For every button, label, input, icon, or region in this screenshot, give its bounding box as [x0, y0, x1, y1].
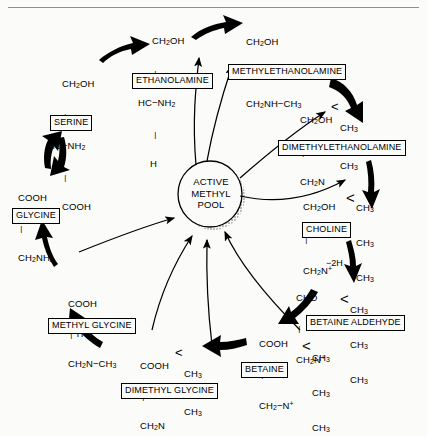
annotation-dehydrogenation: −2H	[326, 258, 343, 268]
methylethanolamine-line1: CH2OH	[246, 37, 301, 50]
ethanolamine-line1: CH2OH	[152, 36, 184, 49]
betaine-aldehyde-branch: CH3 CH3 CH3	[350, 282, 368, 409]
betaine-branch: CH3 CH3 CH3	[312, 330, 330, 436]
choline-r2: CH3	[356, 237, 374, 250]
serine-line3: COOH	[62, 202, 94, 213]
label-ethanolamine: ETHANOLAMINE	[132, 73, 213, 89]
methyl-glycine-line1: COOH	[68, 299, 116, 310]
ethanolamine-line2: HC−NH2	[138, 98, 184, 111]
methylethanolamine-line2: CH2NH−CH3	[246, 99, 301, 112]
glycine-line1: COOH	[18, 193, 54, 204]
dimethylethanolamine-r2: CH3	[340, 160, 358, 174]
ethanolamine-bond2: |	[152, 131, 184, 138]
structure-ethanolamine: CH2OH | HC−NH2 | H	[152, 15, 184, 191]
label-dimethyl-glycine: DIMETHYL GLYCINE	[121, 383, 218, 399]
dimethylethanolamine-r1: CH3	[340, 122, 358, 136]
glycine-bond1: |	[18, 225, 54, 232]
glycine-line2: CH2NH2	[18, 253, 54, 266]
label-dimethylethanolamine: DIMETHYLETHANOLAMINE	[278, 140, 406, 156]
betaine-bracket: <	[302, 338, 311, 353]
serine-line2: HC−NH2	[48, 141, 94, 154]
label-serine: SERINE	[50, 115, 92, 131]
serine-line1: CH2OH	[62, 79, 94, 92]
betaine-r2: CH3	[312, 387, 330, 400]
dimethyl-glycine-line2: CH2N	[140, 421, 169, 434]
betaine-r3: CH3	[312, 422, 330, 435]
betaine-line2: CH2−N+	[259, 399, 294, 414]
dimethyl-glycine-r2: CH3	[184, 406, 202, 420]
dimethyl-glycine-bracket: <	[175, 346, 183, 359]
dimethylethanolamine-bracket: <	[331, 100, 339, 113]
dimethyl-glycine-line1: COOH	[140, 361, 169, 372]
choline-bracket: <	[346, 190, 355, 205]
betaine-aldehyde-r3: CH3	[350, 374, 368, 387]
betaine-r1: CH3	[312, 352, 330, 365]
label-choline: CHOLINE	[302, 222, 351, 238]
structure-glycine: COOH | CH2NH2	[18, 172, 54, 286]
label-betaine-aldehyde: BETAINE ALDEHYDE	[306, 315, 405, 331]
dimethyl-glycine-r1: CH3	[184, 368, 202, 382]
betaine-line1: COOH	[259, 339, 294, 350]
label-methylethanolamine: METHYLETHANOLAMINE	[228, 64, 346, 80]
choline-r1: CH3	[356, 202, 374, 215]
arrow-ethanolamine-methylethanolamine	[191, 15, 243, 40]
betaine-aldehyde-bracket: <	[340, 291, 349, 306]
label-glycine: GLYCINE	[12, 208, 60, 224]
arrow-serine-ethanolamine	[99, 36, 150, 63]
ethanolamine-line3: H	[150, 159, 184, 170]
arrow-betaine-dimethylglycine	[202, 335, 247, 357]
dimethylethanolamine-line1: CH2OH	[300, 115, 332, 128]
choline-line1: CH2OH	[303, 202, 335, 215]
structure-methyl-glycine: COOH | H CH2N−CH3	[68, 278, 116, 392]
active-methyl-pool-text: ACTIVE METHYL POOL	[180, 176, 242, 211]
label-methyl-glycine: METHYL GLYCINE	[48, 318, 136, 334]
structure-serine: CH2OH | HC−NH2 | COOH	[62, 58, 94, 234]
betaine-aldehyde-r2: CH3	[350, 339, 368, 352]
betaine-aldehyde-line1: CHO	[296, 293, 325, 304]
label-betaine: BETAINE	[241, 362, 288, 378]
methyl-glycine-line2: CH2N−CH3	[68, 359, 116, 372]
serine-bond2: |	[62, 174, 94, 181]
